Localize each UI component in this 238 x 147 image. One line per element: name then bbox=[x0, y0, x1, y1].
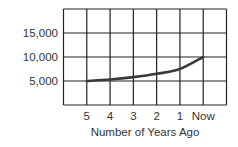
x-axis-title: Number of Years Ago bbox=[85, 126, 205, 138]
y-tick-label: 10,000 bbox=[23, 51, 58, 63]
data-line bbox=[87, 57, 203, 81]
x-tick-label: Now bbox=[188, 110, 218, 122]
y-tick-label: 5,000 bbox=[29, 75, 58, 87]
line-chart bbox=[0, 0, 238, 147]
y-tick-label: 15,000 bbox=[23, 27, 58, 39]
